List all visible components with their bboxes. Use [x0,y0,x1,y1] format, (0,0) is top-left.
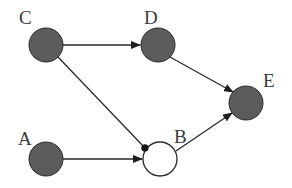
node-a [29,142,63,176]
node-e [229,86,263,120]
edge-d-to-e [170,57,233,92]
edge-c-to-b [58,57,145,148]
node-c [29,28,63,62]
node-a-label: A [18,128,32,149]
node-b-label: B [174,126,187,147]
edge-c-to-b-dot-head-top [142,145,149,152]
node-d [141,28,175,62]
node-c-label: C [19,7,32,28]
node-e-label: E [263,70,275,91]
graph-diagram: C D E A B [0,0,292,188]
node-d-label: D [144,7,158,28]
